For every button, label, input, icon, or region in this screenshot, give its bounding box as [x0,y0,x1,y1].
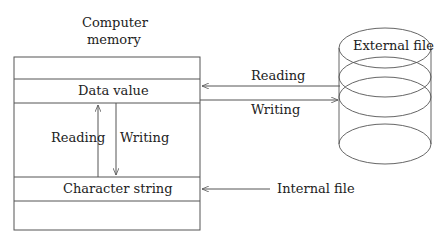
internal-reading-label: Reading [51,131,105,144]
data-value-label: Data value [78,84,149,97]
external-writing-label: Writing [251,103,300,116]
memory-title-line1: Computer [82,16,148,29]
character-string-label: Character string [63,182,173,195]
internal-writing-label: Writing [120,131,169,144]
diagram-canvas [0,0,448,237]
external-file-label: External file [353,39,434,52]
internal-file-label: Internal file [277,182,355,195]
external-reading-label: Reading [251,69,305,82]
memory-title-line2: memory [87,33,141,46]
